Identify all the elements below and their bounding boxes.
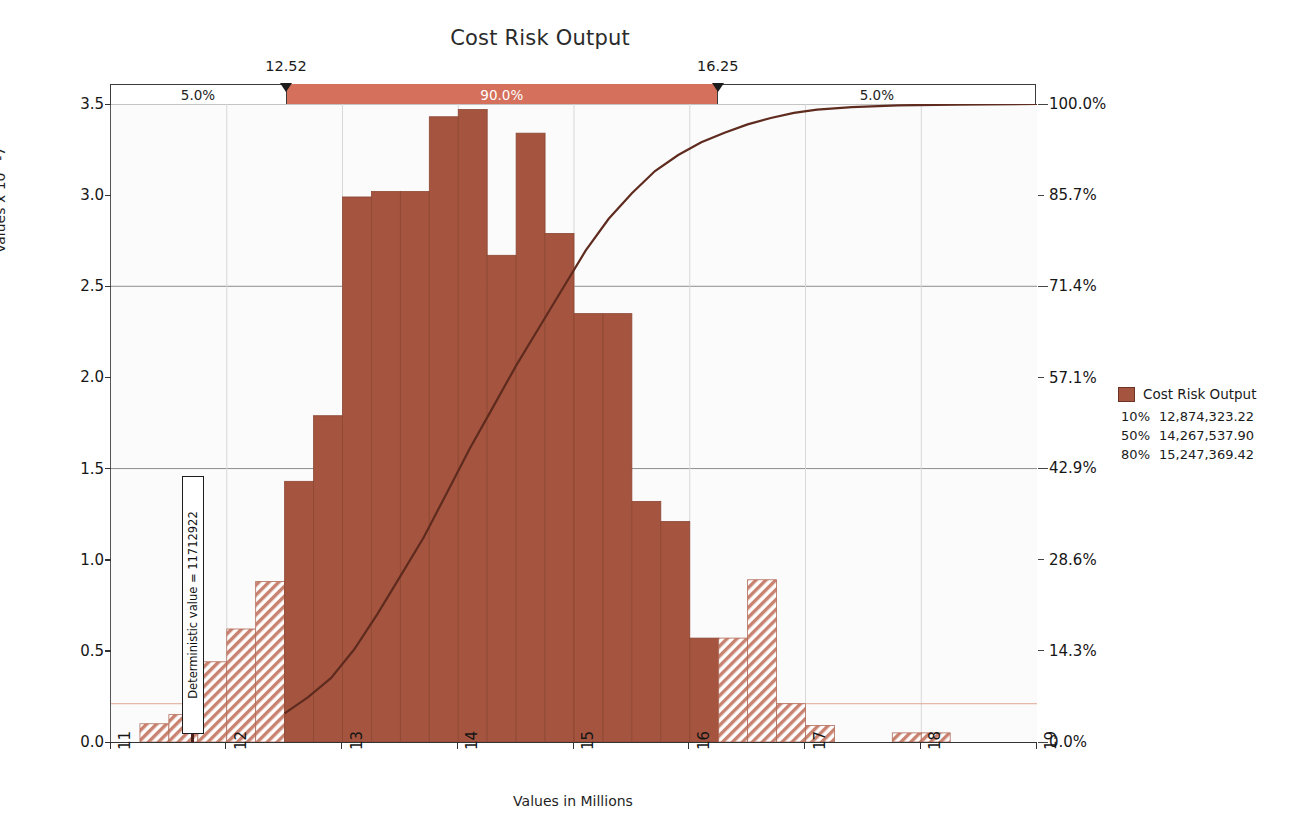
x-tick-mark	[110, 743, 111, 749]
y-tick-right: 42.9%	[1049, 459, 1097, 477]
y-tick-mark-right	[1038, 559, 1044, 560]
histogram-bar	[892, 733, 921, 742]
histogram-bar	[227, 629, 256, 742]
deterministic-value-box: Deterministic value = 11712922	[182, 476, 204, 734]
histogram-bar	[314, 416, 343, 742]
slider-left-percent: 5.0%	[110, 87, 286, 103]
legend-series-row: Cost Risk Output	[1118, 386, 1298, 402]
y-tick-right: 28.6%	[1049, 551, 1097, 569]
histogram-svg	[111, 104, 1037, 742]
histogram-bar	[603, 314, 632, 742]
x-tick-mark	[920, 743, 921, 749]
y-tick-right: 100.0%	[1049, 95, 1106, 113]
histogram-bar	[140, 724, 169, 742]
legend-stat-value: 12,874,323.22	[1159, 408, 1254, 427]
deterministic-value-stem	[191, 734, 193, 742]
y-tick-mark-left	[105, 104, 111, 105]
y-tick-left: 0.0	[44, 733, 104, 751]
x-axis-label: Values in Millions	[110, 793, 1036, 809]
x-tick-mark	[688, 743, 689, 749]
x-tick-mark	[225, 743, 226, 749]
histogram-bar	[777, 704, 806, 742]
percentile-slider[interactable]: 5.0% 90.0% 5.0% 12.52 16.25	[110, 84, 1036, 106]
x-tick: 19	[1042, 731, 1060, 750]
slider-middle-percent: 90.0%	[286, 87, 718, 103]
y-tick-left: 1.0	[44, 551, 104, 569]
slider-right-value: 16.25	[697, 58, 739, 74]
y-tick-mark-right	[1038, 286, 1048, 287]
legend-stat-row: 80% 15,247,369.42	[1118, 446, 1298, 465]
y-tick-right: 85.7%	[1049, 186, 1097, 204]
y-tick-mark-left	[105, 286, 111, 287]
histogram-bar	[371, 191, 400, 742]
y-tick-left: 3.0	[44, 186, 104, 204]
x-tick: 18	[926, 731, 944, 750]
y-tick-mark-right	[1038, 104, 1048, 105]
y-tick-right: 71.4%	[1049, 277, 1097, 295]
histogram-bars	[140, 109, 950, 742]
legend-stat-percentile: 80%	[1118, 446, 1150, 465]
y-tick-mark-left	[105, 195, 111, 196]
chart-title: Cost Risk Output	[0, 26, 1080, 50]
x-tick: 17	[811, 731, 829, 750]
plot-area	[110, 104, 1037, 743]
histogram-bar	[429, 117, 458, 742]
histogram-bar	[516, 133, 545, 742]
deterministic-value-label: Deterministic value = 11712922	[186, 511, 200, 699]
x-tick-mark	[341, 743, 342, 749]
legend-stat-value: 14,267,537.90	[1159, 427, 1254, 446]
legend: Cost Risk Output 10% 12,874,323.22 50% 1…	[1118, 386, 1298, 465]
legend-stat-value: 15,247,369.42	[1159, 446, 1254, 465]
histogram-bar	[256, 582, 285, 742]
x-tick-mark	[457, 743, 458, 749]
x-tick-mark	[1036, 743, 1037, 749]
y-tick-left: 0.5	[44, 642, 104, 660]
y-tick-mark-left	[105, 468, 111, 469]
y-tick-mark-right	[1038, 377, 1044, 378]
histogram-bar	[400, 191, 429, 742]
x-tick: 14	[463, 731, 481, 750]
x-tick: 15	[579, 731, 597, 750]
slider-handle-left[interactable]	[280, 83, 292, 92]
legend-stat-percentile: 50%	[1118, 427, 1150, 446]
legend-stat-percentile: 10%	[1118, 408, 1150, 427]
y-tick-right: 57.1%	[1049, 369, 1097, 387]
y-tick-mark-left	[105, 650, 111, 651]
y-tick-left: 2.0	[44, 368, 104, 386]
y-tick-left: 1.5	[44, 460, 104, 478]
x-tick-mark	[573, 743, 574, 749]
histogram-bar	[574, 314, 603, 742]
histogram-bar	[632, 501, 661, 742]
histogram-bar	[719, 638, 748, 742]
legend-statistics: 10% 12,874,323.22 50% 14,267,537.90 80% …	[1118, 408, 1298, 465]
y-axis-label-left: Values x 10^-7	[0, 100, 8, 300]
y-tick-mark-right	[1038, 650, 1044, 651]
legend-stat-row: 50% 14,267,537.90	[1118, 427, 1298, 446]
slider-right-percent: 5.0%	[718, 87, 1036, 103]
y-tick-left: 3.5	[44, 95, 104, 113]
legend-stat-row: 10% 12,874,323.22	[1118, 408, 1298, 427]
slider-left-value: 12.52	[265, 58, 307, 74]
chart-root: Cost Risk Output 5.0% 90.0% 5.0% 12.52 1…	[0, 0, 1304, 822]
legend-swatch-icon	[1118, 387, 1135, 402]
y-tick-left: 2.5	[44, 277, 104, 295]
histogram-bar	[343, 197, 372, 742]
y-tick-mark-right	[1038, 468, 1048, 469]
y-tick-mark-right	[1038, 195, 1044, 196]
y-tick-mark-left	[105, 559, 111, 560]
legend-series-name: Cost Risk Output	[1143, 386, 1256, 402]
histogram-bar	[748, 580, 777, 742]
slider-handle-right[interactable]	[712, 83, 724, 92]
x-tick-mark	[804, 743, 805, 749]
histogram-bar	[487, 255, 516, 742]
histogram-bar	[661, 521, 690, 742]
x-tick: 12	[232, 731, 250, 750]
y-tick-mark-left	[105, 377, 111, 378]
x-tick: 13	[348, 731, 366, 750]
x-tick: 16	[695, 731, 713, 750]
x-tick: 11	[116, 731, 134, 750]
y-tick-right: 14.3%	[1049, 642, 1097, 660]
histogram-bar	[690, 638, 719, 742]
